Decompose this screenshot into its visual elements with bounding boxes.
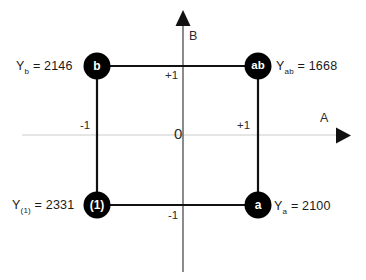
origin-label: 0 bbox=[174, 126, 182, 141]
value-label-one-value: 2331 bbox=[46, 198, 75, 212]
axis-b-name: B bbox=[189, 30, 197, 43]
tick-label-a-plus-one: +1 bbox=[237, 120, 250, 132]
node-ab-label: ab bbox=[248, 60, 268, 72]
value-label-b-symbol: Y bbox=[16, 59, 25, 73]
value-label-a-symbol: Y bbox=[274, 199, 283, 213]
node-one-label: (1) bbox=[87, 199, 107, 211]
figure-canvas: b ab (1) a Yb = 2146 Yab = 1668 Y(1) = 2… bbox=[0, 0, 366, 280]
axis-b-arrowhead bbox=[176, 10, 191, 26]
value-label-b-value: 2146 bbox=[44, 59, 73, 73]
value-label-ab-equals: = bbox=[294, 59, 309, 73]
node-b-label: b bbox=[87, 60, 107, 72]
value-label-one-equals: = bbox=[31, 198, 46, 212]
value-label-ab-subscript: ab bbox=[285, 67, 294, 76]
value-label-b-equals: = bbox=[29, 59, 44, 73]
value-label-ab-symbol: Y bbox=[276, 59, 285, 73]
value-label-one: Y(1) = 2331 bbox=[12, 199, 74, 212]
axis-a-arrowhead bbox=[336, 128, 351, 144]
value-label-a: Ya = 2100 bbox=[274, 200, 331, 213]
tick-label-b-plus-one: +1 bbox=[165, 70, 178, 82]
factorial-design-diagram bbox=[0, 0, 366, 280]
value-label-a-equals: = bbox=[287, 199, 302, 213]
node-a-label: a bbox=[248, 199, 268, 211]
value-label-ab: Yab = 1668 bbox=[276, 60, 337, 73]
value-label-a-value: 2100 bbox=[302, 199, 331, 213]
value-label-one-symbol: Y bbox=[12, 198, 21, 212]
value-label-b: Yb = 2146 bbox=[16, 60, 73, 73]
tick-label-a-minus-one: -1 bbox=[80, 120, 90, 132]
axis-a-name: A bbox=[320, 112, 328, 125]
value-label-one-subscript: (1) bbox=[21, 206, 31, 215]
tick-label-b-minus-one: -1 bbox=[168, 210, 178, 222]
value-label-ab-value: 1668 bbox=[309, 59, 338, 73]
